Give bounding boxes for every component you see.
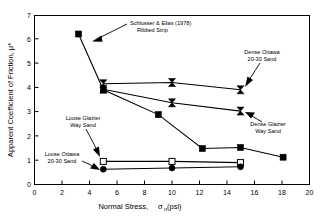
x-axis-title-symbol: σ — [158, 202, 163, 211]
chart-figure: 0 1 2 3 4 5 6 7 0 2 4 6 — [0, 0, 330, 217]
x-tick-label-10: 10 — [168, 189, 176, 196]
x-axis-title: Normal Stress, σ n (psi) — [98, 202, 182, 212]
y-tick-label-1: 1 — [27, 157, 31, 164]
chart-svg: 0 1 2 3 4 5 6 7 0 2 4 6 — [0, 0, 330, 217]
y-axis-title: Apparent Coefficient of Friction, μ* — [6, 43, 15, 157]
annotation-dense-ottawa-line1: Dense Ottawa — [244, 49, 280, 55]
y-tick-label-0: 0 — [27, 181, 31, 188]
annotation-loose-glazier-line1: Loose Glazier — [66, 115, 101, 121]
annotation-dense-glazier-line1: Dense Glazier — [250, 121, 286, 127]
y-tick-label-6: 6 — [27, 36, 31, 43]
x-tick-label-2: 2 — [60, 189, 64, 196]
annotation-schlosser-line2: Ribbed Strip — [137, 27, 168, 33]
annotation-dense-glazier-line2: Way Sand — [255, 128, 281, 134]
x-tick-label-8: 8 — [143, 189, 147, 196]
y-tick-label-5: 5 — [27, 60, 31, 67]
x-tick-label-6: 6 — [115, 189, 119, 196]
x-tick-label-14: 14 — [223, 189, 231, 196]
x-tick-label-16: 16 — [251, 189, 259, 196]
x-tick-label-4: 4 — [88, 189, 92, 196]
y-tick-label-7: 7 — [27, 12, 31, 19]
x-tick-label-20: 20 — [306, 189, 314, 196]
x-tick-label-0: 0 — [33, 189, 37, 196]
x-axis-title-main: Normal Stress, — [98, 202, 148, 211]
x-axis-title-unit: (psi) — [167, 202, 182, 211]
annotation-dense-ottawa-line2: 20-30 Sand — [248, 56, 277, 62]
y-tick-label-2: 2 — [27, 133, 31, 140]
y-tick-label-3: 3 — [27, 108, 31, 115]
x-tick-label-18: 18 — [278, 189, 286, 196]
annotation-loose-glazier-line2: Way Sand — [70, 122, 96, 128]
annotation-loose-ottawa-line1: Loose Ottawa — [45, 151, 80, 157]
annotation-schlosser-line1: Schlosser & Elias (1978) — [130, 20, 191, 26]
x-tick-label-12: 12 — [196, 189, 204, 196]
annotation-loose-ottawa-line2: 20-30 Sand — [48, 158, 77, 164]
y-tick-label-4: 4 — [27, 84, 31, 91]
